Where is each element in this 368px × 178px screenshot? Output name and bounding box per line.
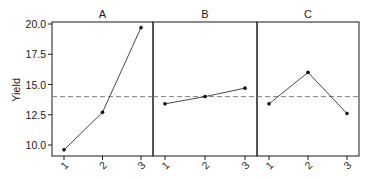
x-tick-label: 3 — [135, 159, 148, 172]
y-axis: 10.012.515.017.520.0 — [26, 18, 52, 151]
y-tick-label: 10.0 — [26, 139, 47, 151]
x-tick-label: 1 — [263, 159, 276, 172]
x-tick-label: 3 — [239, 159, 252, 172]
panel-title: B — [201, 8, 208, 20]
data-point — [62, 148, 66, 152]
y-tick-label: 15.0 — [26, 79, 47, 91]
data-point — [267, 102, 271, 106]
panel-a: A123 — [52, 8, 153, 171]
panel-title: C — [304, 8, 312, 20]
x-tick-label: 2 — [199, 159, 212, 172]
main-effects-chart: Yield 10.012.515.017.520.0 A123B123C123 — [0, 0, 368, 178]
x-tick-label: 1 — [58, 159, 71, 172]
panel-b: B123 — [153, 8, 257, 171]
panel-title: A — [99, 8, 107, 20]
data-point — [139, 26, 143, 30]
panels: A123B123C123 — [52, 8, 359, 171]
y-tick-label: 12.5 — [26, 109, 47, 121]
x-tick-label: 3 — [341, 159, 354, 172]
panel-c: C123 — [257, 8, 359, 171]
data-point — [306, 71, 310, 75]
y-tick-label: 20.0 — [26, 18, 47, 30]
data-point — [163, 102, 167, 106]
data-point — [101, 111, 105, 115]
x-tick-label: 2 — [302, 159, 315, 172]
series-line — [64, 28, 141, 150]
y-tick-label: 17.5 — [26, 48, 47, 60]
data-point — [243, 86, 247, 90]
x-tick-label: 1 — [159, 159, 172, 172]
y-axis-label: Yield — [10, 78, 22, 102]
data-point — [345, 112, 349, 116]
series-line — [269, 72, 347, 113]
x-tick-label: 2 — [96, 159, 109, 172]
data-point — [203, 95, 207, 99]
